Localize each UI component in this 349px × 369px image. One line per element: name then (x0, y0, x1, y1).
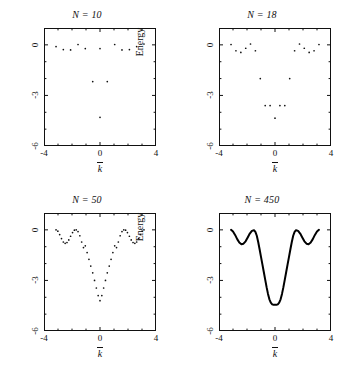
x-tick-label: 4 (146, 148, 166, 158)
x-tick-label: 4 (146, 333, 166, 343)
figure-panel-grid: N = 10 Energy k -4040-3-6 N = 18 Energy … (0, 0, 349, 369)
x-axis-label: k (219, 163, 331, 174)
x-axis-label-text: k (273, 163, 277, 174)
y-tick-label: -6 (27, 324, 43, 338)
plot-area (219, 213, 331, 331)
plot-svg (219, 213, 331, 331)
y-tick-label: -6 (202, 324, 218, 338)
y-tick-label: -6 (27, 139, 43, 153)
x-axis-label-text: k (98, 348, 102, 359)
overbar-accent (97, 162, 102, 163)
panel-n-450: N = 450 Energy k -4040-3-6 (175, 185, 349, 369)
panel-title: N = 18 (175, 9, 349, 20)
plot-area (219, 28, 331, 146)
y-axis-label: Energy (134, 168, 148, 286)
y-tick-label: -3 (202, 273, 218, 287)
overbar-accent (97, 347, 102, 348)
overbar-accent (272, 162, 277, 163)
x-tick-label: 4 (321, 333, 341, 343)
overbar-accent (272, 347, 277, 348)
y-tick-label: -3 (27, 273, 43, 287)
plot-svg (219, 28, 331, 146)
y-tick-label: 0 (27, 223, 43, 237)
y-axis-label: Energy (134, 0, 148, 101)
x-tick-label: 0 (90, 333, 110, 343)
y-tick-label: -6 (202, 139, 218, 153)
y-tick-label: -3 (27, 88, 43, 102)
x-tick-label: 0 (265, 148, 285, 158)
y-tick-label: -3 (202, 88, 218, 102)
x-axis-label-text: k (273, 348, 277, 359)
x-axis-label-text: k (98, 163, 102, 174)
y-tick-label: 0 (27, 38, 43, 52)
x-tick-label: 0 (90, 148, 110, 158)
x-axis-label: k (219, 348, 331, 359)
x-axis-label: k (44, 348, 156, 359)
panel-n-18: N = 18 Energy k -4040-3-6 (175, 0, 349, 184)
x-tick-label: 4 (321, 148, 341, 158)
x-tick-label: 0 (265, 333, 285, 343)
y-tick-label: 0 (202, 223, 218, 237)
panel-title: N = 450 (175, 194, 349, 205)
y-tick-label: 0 (202, 38, 218, 52)
